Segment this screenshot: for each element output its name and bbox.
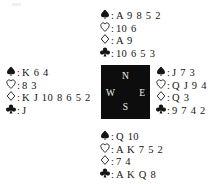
hand-west-spades-line: : K 6 4 xyxy=(6,65,91,78)
spade-icon xyxy=(156,65,166,76)
hand-west-spades: K 6 4 xyxy=(22,67,49,80)
club-icon xyxy=(156,103,166,114)
hand-west-clubs: J xyxy=(22,105,27,118)
hand-east-clubs-line: : 9 7 4 2 xyxy=(156,103,207,116)
diamond-icon xyxy=(6,90,16,101)
hand-east-hearts: Q J 9 4 xyxy=(172,80,207,93)
club-icon xyxy=(100,167,110,178)
hand-south: : Q 10 : A K 7 5 2 : 7 4 : A K Q 8 xyxy=(100,129,163,179)
hand-west-diamonds: K J 10 8 6 5 2 xyxy=(22,92,91,105)
hand-west: : K 6 4 : 8 3 : K J 10 8 6 5 2 : J xyxy=(6,65,91,115)
hand-south-clubs: A K Q 8 xyxy=(116,169,156,182)
heart-icon xyxy=(100,21,110,32)
hand-south-diamonds: 7 4 xyxy=(116,156,131,169)
hand-east-diamonds: Q 3 xyxy=(172,92,189,105)
hand-east-hearts-line: : Q J 9 4 xyxy=(156,78,207,91)
heart-icon xyxy=(156,78,166,89)
compass-box: N W E S xyxy=(101,65,150,119)
hand-west-hearts: 8 3 xyxy=(22,80,37,93)
hand-south-hearts-line: : A K 7 5 2 xyxy=(100,142,163,155)
hand-east-spades-line: : J 7 3 xyxy=(156,65,207,78)
club-icon xyxy=(6,103,16,114)
hand-east-clubs: 9 7 4 2 xyxy=(172,105,206,118)
spade-icon xyxy=(100,129,110,140)
hand-north-clubs: 10 6 5 3 xyxy=(116,48,156,61)
spade-icon xyxy=(6,65,16,76)
hand-north-spades-line: : A 9 8 5 2 xyxy=(100,8,161,21)
hand-south-spades-line: : Q 10 xyxy=(100,129,163,142)
hand-north-hearts: 10 6 xyxy=(116,23,137,36)
bridge-deal-diagram: : A 9 8 5 2 : 10 6 : A 9 : 10 6 5 3 xyxy=(0,0,224,184)
hand-north-diamonds: A 9 xyxy=(116,35,133,48)
spade-icon xyxy=(100,8,110,19)
hand-north: : A 9 8 5 2 : 10 6 : A 9 : 10 6 5 3 xyxy=(100,8,161,58)
diamond-icon xyxy=(100,154,110,165)
club-icon xyxy=(100,46,110,57)
scan-artifact xyxy=(12,3,21,6)
compass-south-label: S xyxy=(101,103,150,113)
compass-north-label: N xyxy=(101,72,150,82)
hand-north-spades: A 9 8 5 2 xyxy=(116,10,161,23)
hand-east: : J 7 3 : Q J 9 4 : Q 3 : 9 7 4 2 xyxy=(156,65,207,115)
hand-north-clubs-line: : 10 6 5 3 xyxy=(100,46,161,59)
hand-north-diamonds-line: : A 9 xyxy=(100,33,161,46)
hand-south-hearts: A K 7 5 2 xyxy=(116,144,163,157)
compass-east-label: E xyxy=(139,89,145,99)
diamond-icon xyxy=(100,33,110,44)
heart-icon xyxy=(100,142,110,153)
compass-west-label: W xyxy=(106,89,115,99)
hand-south-spades: Q 10 xyxy=(116,131,139,144)
heart-icon xyxy=(6,78,16,89)
hand-west-diamonds-line: : K J 10 8 6 5 2 xyxy=(6,90,91,103)
hand-east-spades: J 7 3 xyxy=(172,67,195,80)
diamond-icon xyxy=(156,90,166,101)
hand-south-clubs-line: : A K Q 8 xyxy=(100,167,163,180)
